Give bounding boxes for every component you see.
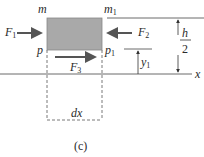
label-dx: dx xyxy=(71,107,82,119)
label-y1: y1 xyxy=(141,56,150,72)
figure-caption: (c) xyxy=(74,139,87,154)
label-f3: F3 xyxy=(70,61,81,77)
label-p: p xyxy=(37,44,43,56)
label-f2: F2 xyxy=(138,26,149,42)
label-two: 2 xyxy=(182,43,188,55)
label-p1: p1 xyxy=(105,44,115,60)
element-diagram xyxy=(0,0,204,157)
label-x: x xyxy=(195,68,200,80)
label-m: m xyxy=(38,3,47,15)
shaded-element xyxy=(47,18,102,50)
label-f1: F1 xyxy=(5,26,16,42)
label-h: h xyxy=(182,27,188,39)
label-m1: m1 xyxy=(104,3,117,19)
